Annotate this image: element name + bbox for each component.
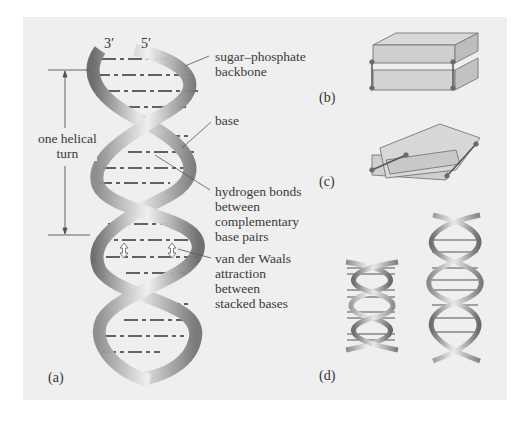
helix-models-d — [346, 215, 481, 361]
panel-label-b: (b) — [319, 90, 335, 106]
three-prime-label: 3′ — [104, 36, 114, 52]
label-hydrogen-bonds: hydrogen bonds between complementary bas… — [215, 184, 302, 244]
label-van-der-waals: van der Waals attraction between stacked… — [215, 251, 291, 311]
panel-label-c: (c) — [319, 174, 335, 190]
panel-label-d: (d) — [319, 368, 335, 384]
double-helix-a — [93, 50, 201, 380]
stacked-blocks-b — [370, 33, 478, 90]
label-base: base — [215, 113, 239, 128]
five-prime-label: 5′ — [141, 36, 151, 52]
panel-label-a: (a) — [48, 370, 64, 386]
twisted-blocks-c — [370, 124, 480, 180]
label-sugar-phosphate-backbone: sugar–phosphate backbone — [215, 49, 306, 79]
helical-turn-label: one helical turn — [38, 131, 97, 161]
